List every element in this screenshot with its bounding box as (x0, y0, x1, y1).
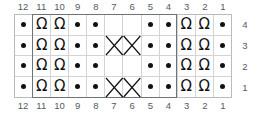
twisted-stitch-omega-icon: Ω (36, 79, 47, 94)
purl-dot-icon (220, 43, 225, 48)
chart-cell (87, 15, 105, 36)
chart-cell: Ω (196, 56, 214, 77)
chart-row: ΩΩΩΩ (15, 36, 231, 57)
purl-dot-icon (148, 63, 153, 68)
chart-cell: Ω (196, 36, 214, 57)
column-number: 5 (141, 0, 159, 13)
column-number: 6 (123, 0, 141, 13)
chart-cell (142, 56, 160, 77)
twisted-stitch-omega-icon: Ω (36, 17, 47, 32)
twisted-stitch-omega-icon: Ω (54, 38, 65, 53)
chart-cell (160, 15, 178, 36)
chart-cell: Ω (51, 77, 69, 98)
purl-dot-icon (148, 84, 153, 89)
twisted-stitch-omega-icon: Ω (199, 38, 210, 53)
column-number: 2 (196, 99, 214, 112)
chart-cell (105, 56, 123, 77)
chart-cell (214, 36, 231, 57)
chart-cell (142, 36, 160, 57)
chart-cell: Ω (178, 56, 196, 77)
knitting-chart: 12 11 10 9 8 7 6 5 4 3 2 1 ΩΩΩΩΩΩΩΩΩΩΩΩΩ… (0, 0, 266, 113)
chart-cell: Ω (178, 77, 196, 98)
purl-dot-icon (21, 63, 26, 68)
column-numbers-bottom: 12 11 10 9 8 7 6 5 4 3 2 1 (14, 99, 232, 112)
column-number: 12 (14, 99, 32, 112)
chart-cell (69, 36, 87, 57)
row-number: 2 (236, 56, 254, 77)
chart-row: ΩΩΩΩ (15, 15, 231, 36)
row-number: 4 (236, 14, 254, 35)
purl-dot-icon (148, 22, 153, 27)
chart-cell (214, 77, 231, 98)
column-number: 12 (14, 0, 32, 13)
column-number: 9 (69, 99, 87, 112)
chart-cell (123, 77, 141, 98)
column-number: 11 (32, 0, 50, 13)
chart-cell (214, 56, 231, 77)
chart-cell (87, 36, 105, 57)
chart-cell (105, 36, 123, 57)
row-number: 3 (236, 35, 254, 56)
chart-row: ΩΩΩΩ (15, 77, 231, 98)
column-number: 3 (178, 0, 196, 13)
purl-dot-icon (75, 43, 80, 48)
chart-grid: ΩΩΩΩΩΩΩΩΩΩΩΩΩΩΩΩ (14, 14, 232, 98)
chart-cell (105, 15, 123, 36)
chart-cell (69, 15, 87, 36)
column-number: 7 (105, 0, 123, 13)
chart-row: ΩΩΩΩ (15, 56, 231, 77)
chart-cell (15, 15, 33, 36)
chart-cell (123, 15, 141, 36)
purl-dot-icon (220, 22, 225, 27)
chart-cell (87, 56, 105, 77)
chart-cell (87, 77, 105, 98)
purl-dot-icon (220, 63, 225, 68)
chart-cell: Ω (196, 77, 214, 98)
purl-dot-icon (220, 84, 225, 89)
twisted-stitch-omega-icon: Ω (199, 58, 210, 73)
chart-cell (214, 15, 231, 36)
purl-dot-icon (93, 43, 98, 48)
column-numbers-top: 12 11 10 9 8 7 6 5 4 3 2 1 (14, 0, 232, 13)
row-numbers: 4 3 2 1 (236, 14, 254, 98)
purl-dot-icon (166, 84, 171, 89)
twisted-stitch-omega-icon: Ω (181, 38, 192, 53)
purl-dot-icon (21, 84, 26, 89)
column-number: 8 (87, 99, 105, 112)
chart-cell: Ω (196, 15, 214, 36)
chart-cell (123, 36, 141, 57)
twisted-stitch-omega-icon: Ω (199, 79, 210, 94)
chart-cell (105, 77, 123, 98)
twisted-stitch-omega-icon: Ω (36, 58, 47, 73)
column-number: 1 (214, 0, 232, 13)
chart-cell (15, 56, 33, 77)
chart-cell (142, 77, 160, 98)
column-number: 4 (159, 99, 177, 112)
twisted-stitch-omega-icon: Ω (181, 58, 192, 73)
chart-cell: Ω (178, 15, 196, 36)
column-number: 1 (214, 99, 232, 112)
chart-cell: Ω (33, 77, 51, 98)
purl-dot-icon (93, 63, 98, 68)
chart-cell: Ω (51, 36, 69, 57)
twisted-stitch-omega-icon: Ω (54, 58, 65, 73)
twisted-stitch-omega-icon: Ω (36, 38, 47, 53)
chart-cell (160, 56, 178, 77)
chart-cell (123, 56, 141, 77)
column-number: 3 (178, 99, 196, 112)
chart-cell (15, 77, 33, 98)
column-number: 4 (159, 0, 177, 13)
column-number: 11 (32, 99, 50, 112)
purl-dot-icon (21, 22, 26, 27)
column-number: 10 (50, 0, 68, 13)
column-number: 2 (196, 0, 214, 13)
purl-dot-icon (93, 84, 98, 89)
chart-cell (15, 36, 33, 57)
twisted-stitch-omega-icon: Ω (181, 79, 192, 94)
purl-dot-icon (75, 84, 80, 89)
purl-dot-icon (75, 63, 80, 68)
row-number: 1 (236, 77, 254, 98)
purl-dot-icon (93, 22, 98, 27)
purl-dot-icon (166, 22, 171, 27)
chart-cell (69, 77, 87, 98)
